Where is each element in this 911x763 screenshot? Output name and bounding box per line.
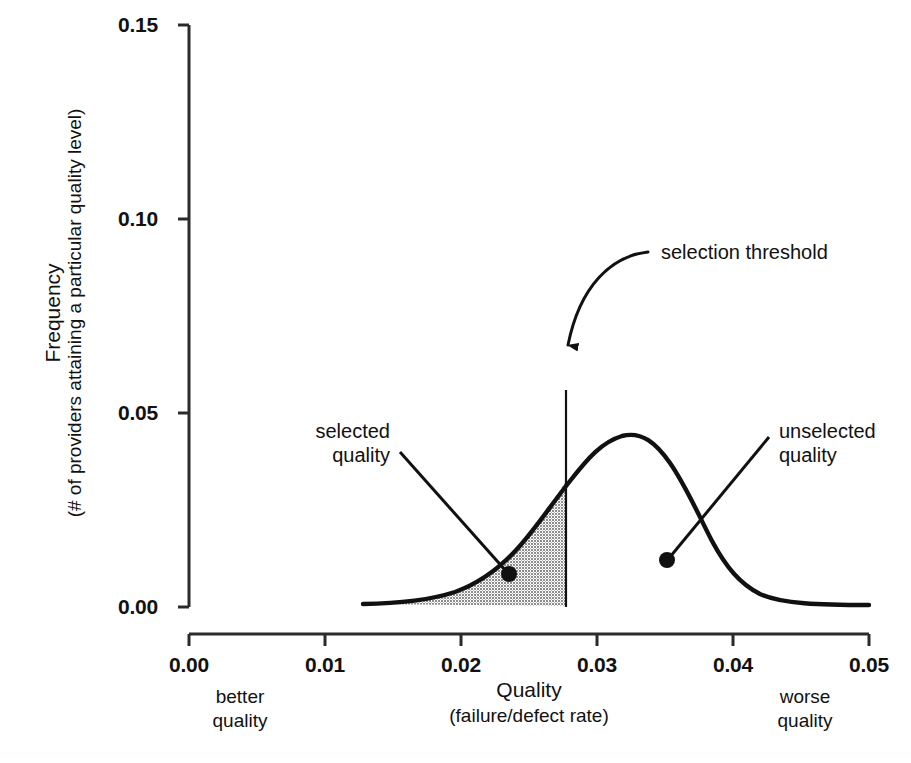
y-axis-ticks [178, 25, 189, 607]
worse-quality-note-line1: worse [740, 686, 870, 709]
better-quality-note-line2: quality [175, 710, 305, 733]
selected-quality-annotation-line1: selected [150, 419, 390, 443]
x-axis-subtitle: (failure/defect rate) [429, 705, 629, 727]
x-tick-label-3: 0.03 [552, 653, 642, 678]
x-tick-label-5: 0.05 [824, 653, 911, 678]
x-axis-title: Quality [429, 678, 629, 703]
x-tick-label-4: 0.04 [688, 653, 778, 678]
y-axis-subtitle: (# of providers attaining a particular q… [64, 23, 90, 603]
x-tick-label-0: 0.00 [144, 653, 234, 678]
selection-threshold-annotation: selection threshold [661, 240, 911, 264]
unselected-quality-annotation-line1: unselected [779, 419, 911, 443]
selected-quality-leader [400, 452, 517, 582]
x-tick-label-1: 0.01 [280, 653, 370, 678]
y-axis-subtitle-text: (# of providers attaining a particular q… [64, 109, 85, 518]
selected-quality-annotation-line2: quality [150, 443, 390, 467]
better-quality-note-line1: better [175, 686, 305, 709]
x-tick-label-2: 0.02 [416, 653, 506, 678]
scan-edge-artifact [0, 752, 911, 757]
selection-threshold-arrow [568, 252, 648, 345]
x-axis-ticks [189, 634, 869, 646]
y-axis-title-text: Frequency [41, 263, 64, 362]
worse-quality-note-line2: quality [740, 710, 870, 733]
quality-distribution-figure: 0.15 0.10 0.05 0.00 0.00 0.01 0.02 0.03 … [0, 0, 911, 763]
unselected-quality-annotation-line2: quality [779, 443, 911, 467]
chart-canvas [0, 0, 911, 763]
